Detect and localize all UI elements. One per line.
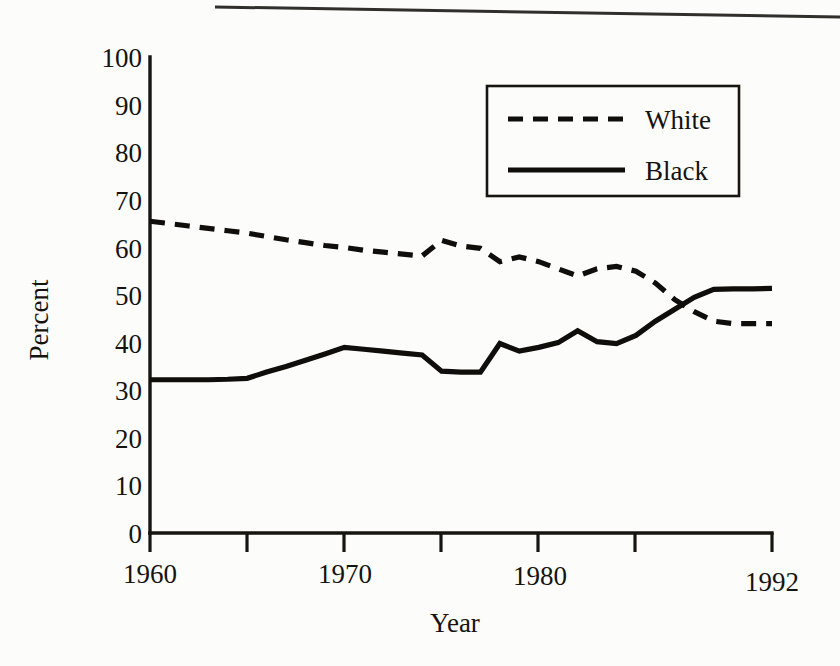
y-tick-label-80: 80	[115, 138, 142, 168]
series-group	[150, 221, 772, 380]
x-tick-label-1980: 1980	[513, 561, 567, 591]
x-tick-label-1970: 1970	[318, 559, 372, 589]
x-tick-label-1992: 1992	[745, 567, 799, 597]
y-tick-label-40: 40	[115, 329, 142, 359]
x-axis-tick-labels: 1960 1970 1980 1992	[123, 559, 799, 597]
legend-label-white: White	[645, 105, 711, 135]
line-chart-canvas: 100 90 80 70 60 50 40 30 20 10 0 1960 19…	[0, 0, 840, 666]
y-tick-label-50: 50	[115, 281, 142, 311]
y-tick-label-90: 90	[115, 91, 142, 121]
legend: White Black	[487, 86, 739, 196]
y-axis-tick-labels: 100 90 80 70 60 50 40 30 20 10 0	[102, 43, 143, 549]
legend-label-black: Black	[645, 156, 708, 186]
y-tick-label-100: 100	[102, 43, 143, 73]
y-tick-label-20: 20	[115, 424, 142, 454]
chart-figure: 100 90 80 70 60 50 40 30 20 10 0 1960 19…	[0, 0, 840, 666]
y-tick-label-30: 30	[115, 376, 142, 406]
y-tick-label-10: 10	[115, 471, 142, 501]
y-tick-label-0: 0	[129, 519, 143, 549]
y-axis-title: Percent	[24, 279, 54, 360]
x-axis-title: Year	[430, 608, 480, 638]
x-tick-label-1960: 1960	[123, 559, 177, 589]
x-axis-tick-marks	[150, 533, 772, 552]
y-tick-label-60: 60	[115, 234, 142, 264]
y-tick-label-70: 70	[115, 186, 142, 216]
